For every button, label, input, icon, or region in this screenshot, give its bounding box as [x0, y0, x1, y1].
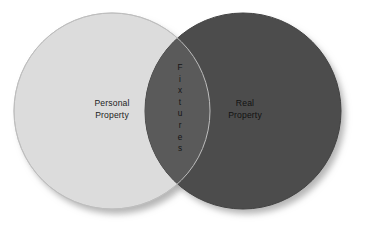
venn-diagram-canvas: [0, 0, 366, 226]
venn-diagram: Personal Property Real Property F i x t …: [0, 0, 366, 226]
